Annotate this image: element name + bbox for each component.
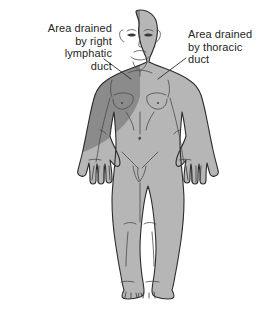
body-fill-light — [0, 0, 280, 317]
lymphatic-drainage-figure: Area drained by right lymphatic duct Are… — [0, 0, 280, 317]
left-nipple — [157, 102, 159, 104]
right-eye-icon — [127, 34, 136, 37]
right-ear-icon — [120, 30, 124, 42]
right-eyebrow — [127, 30, 136, 32]
right-nipple — [121, 102, 123, 104]
anatomical-illustration — [0, 0, 280, 317]
left-shin — [152, 232, 154, 266]
